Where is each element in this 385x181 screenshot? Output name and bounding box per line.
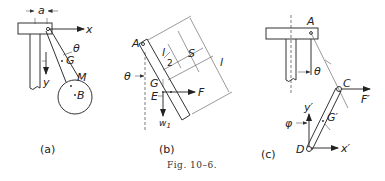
label-theta: θ	[124, 70, 131, 83]
label-y-prime: y′	[303, 101, 314, 114]
label-w1: w1	[159, 118, 171, 130]
figure-10-6: a x y θ G M B (a) A	[0, 0, 385, 181]
sublabel-b: (b)	[159, 143, 175, 156]
pivot-icon	[46, 27, 49, 30]
sublabel-a: (a)	[40, 143, 55, 156]
label-B: B	[77, 89, 85, 102]
label-phi: φ	[285, 117, 293, 130]
label-A: A	[131, 37, 140, 50]
joint-C	[337, 87, 342, 92]
label-a: a	[38, 4, 45, 17]
label-l-half-den: 2	[167, 58, 173, 68]
label-C: C	[343, 77, 351, 90]
label-G: G	[150, 77, 159, 90]
label-A: A	[306, 15, 315, 28]
end-D	[307, 147, 312, 152]
figure-caption: Fig. 10–6.	[167, 160, 217, 170]
ball-mass	[58, 80, 92, 114]
label-G: G	[66, 54, 75, 67]
label-D: D	[296, 143, 304, 156]
label-F: F	[198, 86, 205, 99]
label-M: M	[77, 71, 87, 84]
label-x: x	[85, 23, 93, 36]
support-stem	[30, 34, 40, 90]
label-y: y	[42, 76, 50, 89]
label-F-prime: F′	[361, 93, 370, 106]
label-S: S	[188, 47, 195, 60]
panel-c: A θ C F′ D y′ φ G′ x′ (c)	[261, 15, 370, 161]
panel-b: A θ l 2 S l G E F w1 (b) Fig. 10–6.	[124, 16, 232, 170]
panel-a: a x y θ G M B (a)	[18, 4, 93, 156]
label-x-prime: x′	[340, 142, 351, 155]
sublabel-c: (c)	[261, 148, 276, 161]
label-theta: θ	[314, 65, 321, 78]
pivot-icon	[142, 43, 145, 46]
label-G-prime: G′	[327, 111, 339, 124]
dimension-a: a	[26, 4, 58, 24]
label-E: E	[151, 90, 158, 103]
label-l: l	[220, 56, 223, 69]
